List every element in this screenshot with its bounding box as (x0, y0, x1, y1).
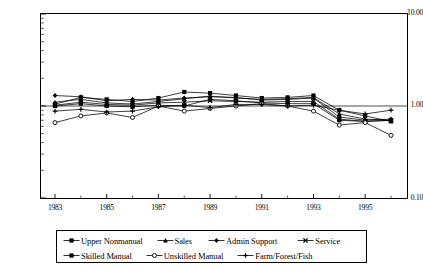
legend-item[interactable]: Unskilled Manual (146, 251, 224, 261)
legend-marker-icon (297, 236, 314, 245)
legend-marker-icon (146, 251, 163, 260)
legend-item[interactable]: Admin Support (208, 236, 277, 246)
chart-legend: Upper NonmanualSalesAdmin SupportService… (56, 230, 367, 263)
legend-item[interactable]: Skilled Manual (63, 251, 132, 261)
legend-item[interactable]: Service (297, 236, 340, 246)
x-axis-tick-label: 1985 (87, 203, 127, 212)
legend-item-label: Sales (174, 236, 192, 246)
plot-svg (41, 14, 407, 198)
x-axis-tick-label: 1991 (242, 203, 282, 212)
legend-item-label: Farm/Forest/Fish (254, 251, 312, 261)
series-line (53, 90, 393, 124)
legend-marker-icon (208, 236, 225, 245)
legend-item-label: Upper Nonmanual (80, 236, 143, 246)
x-axis-tick-label: 1987 (138, 203, 178, 212)
x-axis-tick-label: 1983 (35, 203, 75, 212)
x-axis-tick-label: 1993 (293, 203, 333, 212)
x-axis-tick-label: 1995 (345, 203, 385, 212)
x-axis-tick-label: 1989 (190, 203, 230, 212)
legend-item[interactable]: Sales (157, 236, 192, 246)
legend-marker-icon (63, 236, 80, 245)
legend-marker-icon (157, 236, 174, 245)
legend-item-label: Service (314, 236, 340, 246)
legend-item-label: Skilled Manual (80, 251, 132, 261)
legend-item-label: Admin Support (225, 236, 277, 246)
legend-marker-icon (63, 251, 80, 260)
legend-row: Skilled ManualUnskilled ManualFarm/Fores… (57, 248, 366, 263)
legend-item-label: Unskilled Manual (163, 251, 224, 261)
series-line (53, 94, 394, 123)
legend-item[interactable]: Farm/Forest/Fish (237, 251, 312, 261)
chart-container: 10.00 1.00 0.10 198319851987198919911993… (0, 0, 423, 270)
legend-item[interactable]: Upper Nonmanual (63, 236, 143, 246)
legend-marker-icon (237, 251, 254, 260)
plot-area (40, 13, 408, 199)
legend-row: Upper NonmanualSalesAdmin SupportService (57, 233, 366, 248)
series-line (53, 93, 394, 123)
